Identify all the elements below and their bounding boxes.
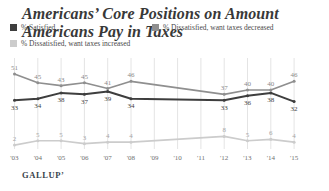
data-point-dissatisfied-decreased	[293, 80, 296, 83]
data-label-dissatisfied-decreased: 46	[128, 71, 136, 79]
x-axis-label-14: '14	[267, 154, 276, 162]
data-point-satisfied	[36, 97, 39, 100]
data-label-dissatisfied-decreased: 45	[81, 73, 89, 81]
data-label-satisfied: 38	[267, 96, 275, 104]
x-axis-label-04: '04	[34, 154, 43, 162]
gallup-wordmark: GALLUP’	[22, 170, 64, 180]
data-label-satisfied: 37	[81, 98, 89, 106]
data-label-dissatisfied-increased: 4	[106, 132, 110, 140]
data-point-dissatisfied-increased	[106, 141, 109, 144]
data-point-dissatisfied-increased	[13, 144, 16, 147]
gallup-tax-chart-card: Americans’ Core Positions on Amount Amer…	[0, 0, 329, 191]
data-point-satisfied	[293, 100, 296, 103]
data-label-dissatisfied-decreased: 43	[58, 76, 66, 84]
data-label-satisfied: 33	[221, 104, 229, 112]
data-point-dissatisfied-increased	[223, 135, 226, 138]
data-label-dissatisfied-increased: 4	[129, 132, 133, 140]
data-point-dissatisfied-increased	[83, 142, 86, 145]
data-label-satisfied: 33	[11, 104, 19, 112]
data-point-satisfied	[130, 97, 133, 100]
data-label-dissatisfied-increased: 8	[222, 126, 226, 134]
data-label-dissatisfied-decreased: 41	[104, 79, 112, 87]
data-point-dissatisfied-decreased	[83, 81, 86, 84]
x-axis-label-13: '13	[243, 154, 252, 162]
data-point-satisfied	[106, 90, 109, 93]
x-axis-label-05: '05	[57, 154, 66, 162]
data-point-dissatisfied-decreased	[106, 87, 109, 90]
x-axis-label-07: '07	[104, 154, 113, 162]
data-point-dissatisfied-increased	[36, 139, 39, 142]
data-label-satisfied: 34	[128, 102, 136, 110]
tax-positions-line-chart: '03'04'05'06'07'08'09'10'11'12'13'14'152…	[0, 0, 329, 191]
data-point-dissatisfied-increased	[246, 139, 249, 142]
x-axis-label-15: '15	[290, 154, 299, 162]
x-axis-label-06: '06	[80, 154, 89, 162]
data-point-dissatisfied-decreased	[13, 73, 16, 76]
data-label-dissatisfied-increased: 2	[13, 135, 17, 143]
data-point-dissatisfied-decreased	[60, 84, 63, 87]
data-point-satisfied	[13, 99, 16, 102]
x-axis-label-08: '08	[127, 154, 136, 162]
x-axis-label-10: '10	[173, 154, 182, 162]
data-label-dissatisfied-decreased: 40	[267, 80, 275, 88]
data-label-dissatisfied-increased: 4	[292, 132, 296, 140]
data-point-dissatisfied-increased	[269, 138, 272, 141]
data-label-dissatisfied-increased: 6	[269, 129, 273, 137]
data-label-dissatisfied-increased: 5	[36, 131, 40, 139]
data-label-dissatisfied-increased: 3	[83, 134, 87, 142]
data-point-dissatisfied-decreased	[269, 89, 272, 92]
x-axis-label-03: '03	[10, 154, 19, 162]
x-axis-label-11: '11	[197, 154, 206, 162]
data-point-dissatisfied-decreased	[130, 80, 133, 83]
data-label-dissatisfied-increased: 5	[246, 131, 250, 139]
data-point-dissatisfied-decreased	[223, 93, 226, 96]
data-label-satisfied: 34	[34, 102, 42, 110]
x-axis-label-09: '09	[150, 154, 159, 162]
x-axis-label-12: '12	[220, 154, 229, 162]
data-label-satisfied: 36	[244, 99, 252, 107]
data-point-dissatisfied-increased	[293, 141, 296, 144]
data-label-satisfied: 32	[291, 105, 299, 113]
data-point-satisfied	[269, 91, 272, 94]
data-point-dissatisfied-increased	[130, 141, 133, 144]
data-label-satisfied: 38	[58, 96, 66, 104]
data-point-satisfied	[223, 99, 226, 102]
data-label-dissatisfied-increased: 5	[59, 131, 63, 139]
data-point-satisfied	[60, 91, 63, 94]
data-point-dissatisfied-decreased	[246, 89, 249, 92]
data-label-dissatisfied-decreased: 51	[11, 64, 19, 72]
data-point-satisfied	[83, 93, 86, 96]
data-point-satisfied	[246, 94, 249, 97]
data-label-satisfied: 39	[104, 95, 112, 103]
data-label-dissatisfied-decreased: 40	[244, 80, 252, 88]
data-point-dissatisfied-increased	[60, 139, 63, 142]
data-label-dissatisfied-decreased: 45	[34, 73, 42, 81]
data-point-dissatisfied-decreased	[36, 81, 39, 84]
data-label-dissatisfied-decreased: 46	[291, 71, 299, 79]
data-label-dissatisfied-decreased: 37	[221, 84, 229, 92]
